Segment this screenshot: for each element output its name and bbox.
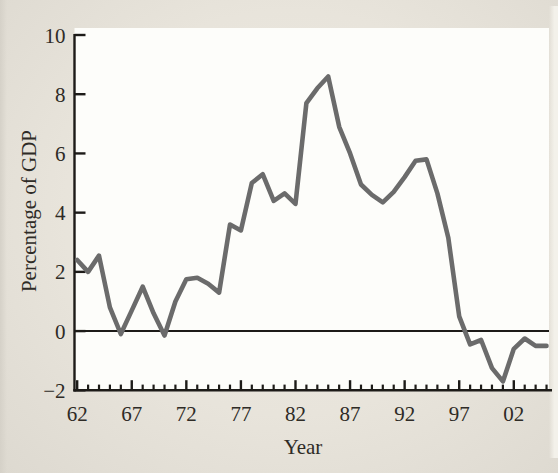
y-tick-label: 2 [55, 260, 66, 284]
y-tick-label: 10 [45, 24, 66, 48]
y-tick-label: 0 [55, 320, 66, 344]
y-tick-label: 4 [55, 201, 66, 225]
scanned-book-figure: −20246810626772778287929702 Percentage o… [0, 0, 558, 473]
x-axis-title: Year [284, 435, 323, 459]
x-tick-label: 02 [503, 402, 524, 426]
x-tick-label: 72 [176, 402, 197, 426]
y-tick-label: 6 [55, 142, 66, 166]
x-tick-label: 87 [340, 402, 361, 426]
x-tick-label: 67 [121, 402, 142, 426]
chart-generated-content: −20246810626772778287929702 [43, 24, 552, 427]
y-tick-label: 8 [55, 83, 66, 107]
gdp-deficit-line-chart: −20246810626772778287929702 Percentage o… [0, 0, 558, 473]
y-tick-label: −2 [43, 379, 65, 403]
x-tick-label: 82 [285, 402, 306, 426]
x-tick-label: 92 [394, 402, 415, 426]
plot-area [75, 28, 550, 391]
x-tick-label: 62 [67, 402, 88, 426]
x-tick-label: 77 [230, 402, 251, 426]
x-tick-label: 97 [449, 402, 470, 426]
y-axis-title: Percentage of GDP [17, 130, 41, 292]
